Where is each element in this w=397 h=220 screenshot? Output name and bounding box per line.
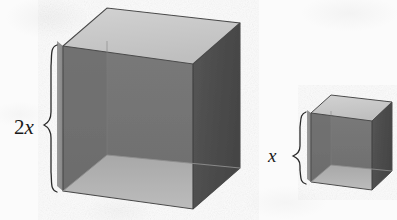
brace-large-path [44, 45, 57, 192]
brace-large-label: 2x [14, 115, 35, 139]
figure-canvas: 2x x [0, 0, 397, 220]
brace-small-label: x [267, 145, 277, 166]
brace-small-path [293, 112, 306, 184]
label-small-variable: x [267, 145, 277, 166]
large-cube-left-outer-face [57, 41, 63, 191]
cubes-diagram: 2x x [0, 0, 397, 220]
small-cube-left-outer-face [307, 110, 311, 182]
label-large-variable: x [24, 115, 35, 139]
brace-small: x [267, 112, 306, 184]
small-cube [307, 95, 392, 190]
label-large-numeral: 2 [14, 115, 25, 139]
brace-large: 2x [14, 45, 57, 192]
large-cube [57, 8, 240, 209]
